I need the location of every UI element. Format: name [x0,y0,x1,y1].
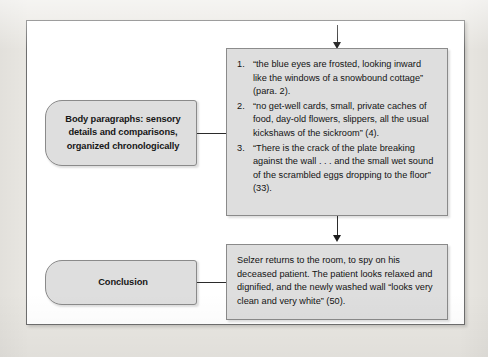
list-item: “the blue eyes are frosted, looking inwa… [237,58,436,99]
conclusion-box-text: Selzer returns to the room, to spy on hi… [237,254,436,308]
connector-evidence-to-conclusion-arrow-head [333,235,341,242]
body-paragraphs-label-line-2: details and comparisons, [65,126,180,139]
node-conclusion-label[interactable]: Conclusion [45,260,197,305]
evidence-list: “the blue eyes are frosted, looking inwa… [237,58,436,196]
list-item: “no get-well cards, small, private cache… [237,100,436,141]
list-item: “There is the crack of the plate breakin… [237,142,436,196]
node-body-paragraphs-label[interactable]: Body paragraphs: sensory details and com… [45,100,197,166]
connector-evidence-to-conclusion-line [337,216,338,237]
connector-body-to-evidence [197,133,227,134]
conclusion-label-text: Conclusion [98,276,148,289]
body-paragraphs-label-line-3: organized chronologically [65,140,180,153]
node-evidence-box[interactable]: “the blue eyes are frosted, looking inwa… [226,48,448,216]
node-conclusion-box[interactable]: Selzer returns to the room, to spy on hi… [226,244,448,320]
body-paragraphs-label-text: Body paragraphs: sensory details and com… [65,113,180,153]
figure-frame: Body paragraphs: sensory details and com… [26,20,465,325]
connector-conclusion-label-to-box [197,282,227,283]
body-paragraphs-label-line-1: Body paragraphs: sensory [65,113,180,126]
